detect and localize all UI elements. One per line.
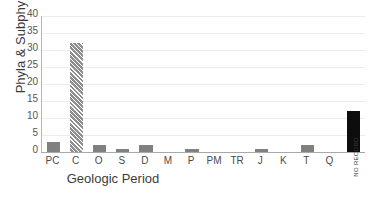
bar-slot-tr (227, 16, 250, 152)
bar-j (255, 149, 268, 152)
y-tick-25: 25 (8, 60, 38, 70)
bar-slot-pc (42, 16, 65, 152)
x-tick-pm: PM (203, 155, 226, 169)
bar-slot-p (180, 16, 203, 152)
x-tick-tr: TR (226, 155, 249, 169)
x-tick-pc: PC (41, 155, 64, 169)
x-tick-q: Q (318, 155, 341, 169)
x-tick-s: S (110, 155, 133, 169)
bar-p (185, 149, 198, 152)
bar-s (116, 149, 129, 152)
bar-slot-m (157, 16, 180, 152)
x-tick-m: M (156, 155, 179, 169)
bar-c (70, 43, 83, 152)
bar-slot-s (111, 16, 134, 152)
x-tick-j: J (249, 155, 272, 169)
bar-series (42, 16, 365, 152)
x-tick-t: T (295, 155, 318, 169)
bar-d (139, 145, 152, 152)
bar-pc (47, 142, 60, 152)
x-axis-title: Geologic Period (38, 171, 188, 186)
y-tick-15: 15 (8, 94, 38, 104)
bar-slot-no-record (342, 16, 365, 152)
bar-t (301, 145, 314, 152)
plot-area (41, 16, 365, 153)
y-axis-tick-labels: 40 35 30 25 20 15 10 5 0 (8, 9, 38, 159)
bar-slot-pm (204, 16, 227, 152)
bar-chart: Phyla & Subphyla 40 35 30 25 20 15 10 5 … (0, 0, 374, 213)
y-tick-5: 5 (8, 128, 38, 138)
x-tick-k: K (272, 155, 295, 169)
x-tick-no-record: NO RECORD (341, 155, 364, 169)
bar-slot-o (88, 16, 111, 152)
y-tick-20: 20 (8, 77, 38, 87)
x-axis-tick-labels: PC C O S D M P PM TR J K T Q NO RECORD (41, 155, 364, 169)
bar-slot-k (273, 16, 296, 152)
x-tick-c: C (64, 155, 87, 169)
x-tick-no-record-text: NO RECORD (353, 137, 360, 176)
bar-slot-t (296, 16, 319, 152)
bar-slot-c (65, 16, 88, 152)
bar-slot-j (250, 16, 273, 152)
x-tick-o: O (87, 155, 110, 169)
bar-slot-q (319, 16, 342, 152)
x-tick-p: P (179, 155, 202, 169)
y-tick-10: 10 (8, 111, 38, 121)
x-tick-d: D (133, 155, 156, 169)
bar-slot-d (134, 16, 157, 152)
y-tick-0: 0 (8, 145, 38, 155)
bar-o (93, 145, 106, 152)
y-tick-35: 35 (8, 26, 38, 36)
y-tick-40: 40 (8, 9, 38, 19)
y-tick-30: 30 (8, 43, 38, 53)
